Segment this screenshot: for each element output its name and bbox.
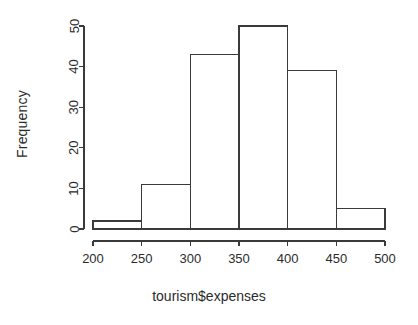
- histogram-bar: [239, 26, 288, 229]
- x-axis-tick-label: 300: [179, 251, 201, 266]
- x-axis-tick-label: 400: [277, 251, 299, 266]
- y-axis-tick-label: 0: [67, 225, 82, 232]
- histogram-bar: [288, 71, 337, 229]
- x-axis-tick-label: 450: [325, 251, 347, 266]
- y-axis-tick-label: 20: [67, 141, 82, 155]
- histogram-bar: [93, 221, 142, 229]
- y-axis-tick-label: 50: [67, 19, 82, 33]
- histogram-bar: [142, 184, 191, 229]
- y-axis-tick-label: 10: [67, 181, 82, 195]
- y-axis-tick-label: 30: [67, 100, 82, 114]
- x-axis-tick-label: 250: [131, 251, 153, 266]
- bars-group: [93, 26, 385, 229]
- plot-canvas: 01020304050200250300350400450500: [0, 0, 418, 325]
- y-axis: 01020304050: [67, 19, 85, 233]
- x-axis-tick-label: 350: [228, 251, 250, 266]
- x-axis-tick-label: 500: [374, 251, 396, 266]
- y-axis-tick-label: 40: [67, 59, 82, 73]
- x-axis-title: tourism$expenses: [0, 288, 418, 304]
- histogram-bar: [190, 54, 239, 229]
- histogram-figure: Frequency 010203040502002503003504004505…: [0, 0, 418, 325]
- x-axis-tick-label: 200: [82, 251, 104, 266]
- histogram-bar: [336, 209, 385, 229]
- x-axis: 200250300350400450500: [82, 241, 396, 266]
